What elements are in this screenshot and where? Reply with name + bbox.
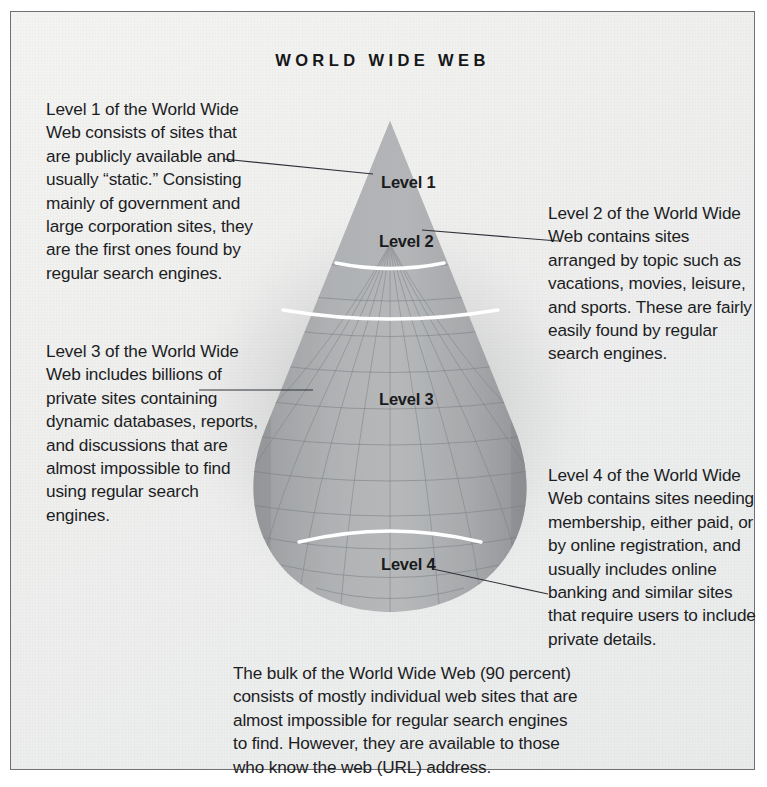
- diagram-page: WORLD WIDE WEB: [0, 0, 767, 787]
- level-1-description: Level 1 of the World Wide Web consists o…: [46, 98, 261, 285]
- diagram-frame: WORLD WIDE WEB: [10, 11, 755, 770]
- level-1-label: Level 1: [381, 173, 436, 192]
- summary-caption: The bulk of the World Wide Web (90 perce…: [233, 662, 578, 779]
- level-3-label: Level 3: [379, 390, 434, 409]
- level-2-description: Level 2 of the World Wide Web contains s…: [548, 202, 756, 366]
- level-3-description: Level 3 of the World Wide Web includes b…: [46, 340, 259, 527]
- level-2-label: Level 2: [379, 232, 434, 251]
- level-4-label: Level 4: [381, 555, 436, 574]
- level-4-description: Level 4 of the World Wide Web contains s…: [548, 464, 758, 651]
